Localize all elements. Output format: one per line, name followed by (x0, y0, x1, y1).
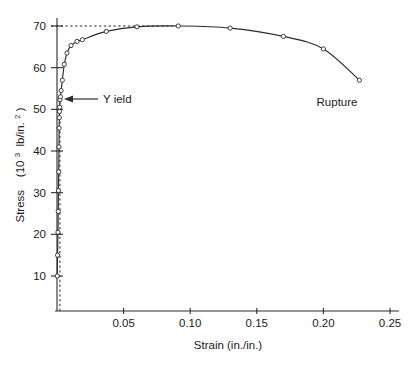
data-point (69, 43, 73, 47)
y-tick-label-20: 20 (33, 228, 46, 240)
y-axis-title-text: Stress (10 3 lb/in. 2 ) (10, 107, 26, 222)
x-tick-label-0.20: 0.20 (312, 317, 334, 329)
y-tick-label-50: 50 (33, 103, 46, 115)
data-point (58, 95, 62, 99)
data-point (57, 116, 61, 120)
data-point (59, 88, 63, 92)
data-point (321, 47, 325, 51)
chart-guide-lines (51, 26, 178, 311)
data-point (80, 38, 84, 42)
stress-strain-chart: 10203040506070 0.050.100.150.200.25 Y ie… (0, 0, 415, 368)
data-point (281, 34, 285, 38)
data-point (104, 29, 108, 33)
data-point (55, 274, 59, 278)
data-point (176, 24, 180, 28)
y-axis-title-exp-3: 3 (13, 152, 22, 157)
y-tick-label-70: 70 (33, 20, 46, 32)
rupture-label: Rupture (317, 96, 358, 108)
stress-strain-curve (57, 26, 359, 276)
data-point (60, 78, 64, 82)
data-point (62, 62, 66, 66)
data-point (57, 170, 61, 174)
data-point (357, 78, 361, 82)
yield-annotation: Y ield (64, 93, 132, 105)
chart-axes (55, 18, 399, 311)
x-tick-label-0.10: 0.10 (179, 317, 201, 329)
x-axis-title: Strain (in./in.) (194, 339, 263, 351)
data-point (228, 26, 232, 30)
data-point-markers (55, 24, 361, 278)
yield-arrow-head (64, 96, 73, 103)
yield-label: Y ield (103, 93, 132, 105)
y-tick-label-10: 10 (33, 270, 46, 282)
y-axis-title-unit-open: (10 (14, 161, 26, 178)
y-axis-title-unit-tail: lb/in. (14, 122, 26, 150)
y-axis-title-exp-2: 2 (13, 114, 22, 119)
data-point (57, 109, 61, 113)
y-tick-label-60: 60 (33, 62, 46, 74)
x-tick-label-0.15: 0.15 (246, 317, 268, 329)
data-point (56, 188, 60, 192)
y-tick-label-40: 40 (33, 145, 46, 157)
data-point (56, 230, 60, 234)
y-axis-title: Stress (10 3 lb/in. 2 ) (10, 107, 26, 222)
data-point (75, 39, 79, 43)
data-point (65, 51, 69, 55)
data-point (56, 209, 60, 213)
y-tick-label-30: 30 (33, 187, 46, 199)
data-point (57, 145, 61, 149)
chart-canvas: 10203040506070 0.050.100.150.200.25 Y ie… (0, 0, 415, 368)
rupture-annotation: Rupture (317, 96, 358, 108)
y-axis-title-main: Stress (14, 190, 26, 223)
y-axis-title-spacer (14, 180, 26, 186)
x-axis-title-text: Strain (in./in.) (194, 339, 263, 351)
y-axis-title-unit-close: ) (14, 107, 26, 111)
x-tick-label-0.25: 0.25 (379, 317, 401, 329)
data-point (55, 253, 59, 257)
data-point (58, 105, 62, 109)
x-tick-label-0.05: 0.05 (112, 317, 134, 329)
data-point (135, 25, 139, 29)
data-point (57, 126, 61, 130)
